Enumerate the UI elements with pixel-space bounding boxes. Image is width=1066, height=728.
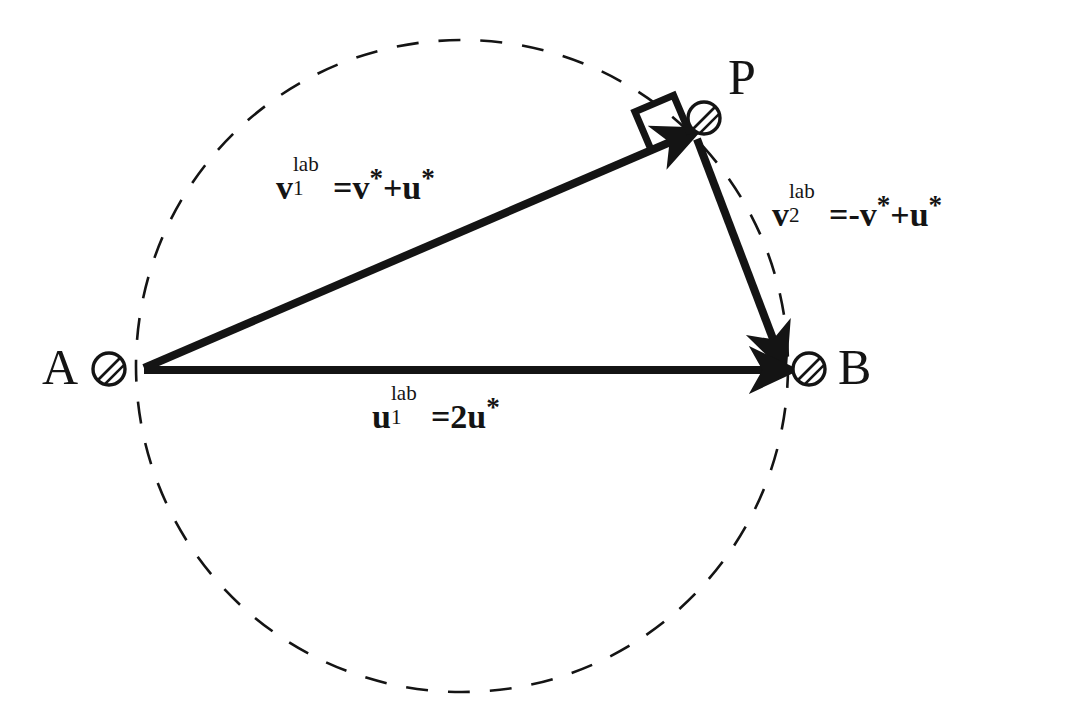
equation-u1-lab: ulab1=2u* [372, 394, 500, 434]
eq-v2-rhs-u: u [910, 196, 929, 233]
eq-u1-sub: 1 [391, 407, 402, 428]
point-label-p: P [728, 52, 756, 102]
equation-v2-lab: vlab2=-v*+u* [772, 192, 942, 232]
eq-v1-sub: 1 [293, 178, 304, 199]
eq-v1-rhs-u: u [402, 169, 421, 206]
eq-u1-equals: = [431, 398, 450, 435]
vector-diagram-svg [0, 0, 1066, 728]
eq-v2-rhs-v: v [860, 196, 877, 233]
eq-v1-equals: = [333, 169, 352, 206]
eq-v1-rhs-v: v [352, 169, 369, 206]
eq-v1-plus: + [383, 169, 402, 206]
eq-u1-star: * [486, 392, 500, 422]
equation-v1-lab: vlab1=v*+u* [276, 165, 435, 205]
hatched-ball-icon [93, 353, 129, 389]
figure-canvas: A P B vlab1=v*+u* vlab2=-v*+u* ulab1=2u* [0, 0, 1066, 728]
hatched-ball-icon [688, 102, 724, 138]
point-label-a: A [42, 342, 78, 392]
eq-v1-symbol: v [276, 169, 293, 206]
eq-v2-star-2: * [929, 190, 943, 220]
eq-u1-symbol: u [372, 398, 391, 435]
eq-u1-rhs-u: u [467, 398, 486, 435]
vector-v2-lab [697, 139, 778, 352]
eq-u1-sup: lab [391, 383, 417, 404]
eq-v1-star-1: * [369, 163, 383, 193]
eq-u1-two: 2 [450, 398, 467, 435]
eq-v2-symbol: v [772, 196, 789, 233]
eq-v2-equals: = [829, 196, 848, 233]
point-label-b: B [838, 342, 871, 392]
eq-v2-plus: + [890, 196, 909, 233]
hatched-ball-icon [793, 353, 829, 389]
eq-v2-sup: lab [789, 181, 815, 202]
eq-v2-minus: - [848, 196, 859, 233]
eq-v2-star-1: * [877, 190, 891, 220]
eq-v1-star-2: * [421, 163, 435, 193]
eq-v1-sup: lab [293, 154, 319, 175]
eq-v2-sub: 2 [789, 205, 800, 226]
